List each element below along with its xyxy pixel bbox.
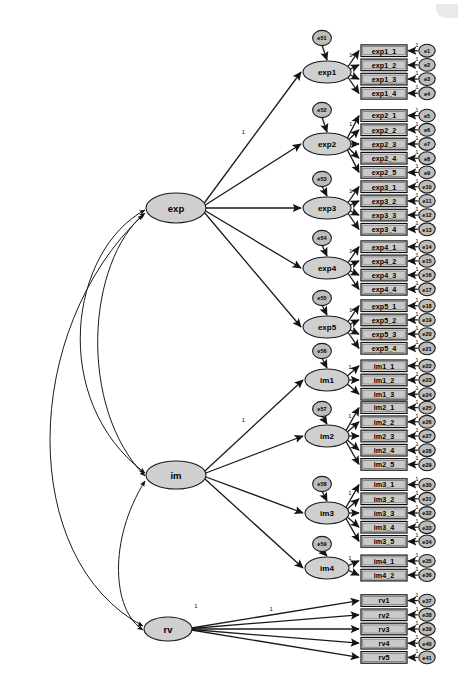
construct-node-exp1[interactable]: exp1 bbox=[303, 61, 351, 83]
latent-node-rv[interactable]: rv bbox=[144, 617, 192, 641]
indicator-box-im1_2[interactable]: im1_2 bbox=[361, 374, 407, 386]
disturbance-node-e59[interactable]: e59 bbox=[313, 536, 332, 551]
error-node-e35[interactable]: e35 bbox=[419, 555, 435, 568]
error-node-e18[interactable]: e18 bbox=[419, 299, 435, 312]
disturbance-node-e52[interactable]: e52 bbox=[313, 102, 332, 117]
error-node-e19[interactable]: e19 bbox=[419, 314, 435, 327]
construct-node-im3[interactable]: im3 bbox=[305, 502, 349, 524]
indicator-box-rv5[interactable]: rv5 bbox=[361, 652, 407, 664]
indicator-box-rv3[interactable]: rv3 bbox=[361, 623, 407, 635]
error-node-e38[interactable]: e38 bbox=[419, 608, 435, 621]
error-node-e20[interactable]: e20 bbox=[419, 328, 435, 341]
indicator-box-exp3_2[interactable]: exp3_2 bbox=[361, 195, 407, 207]
error-node-e5[interactable]: e5 bbox=[419, 109, 435, 122]
error-node-e13[interactable]: e13 bbox=[419, 223, 435, 236]
error-node-e10[interactable]: e10 bbox=[419, 180, 435, 193]
construct-node-im4[interactable]: im4 bbox=[305, 557, 349, 579]
indicator-box-exp5_1[interactable]: exp5_1 bbox=[361, 300, 407, 312]
error-node-e23[interactable]: e23 bbox=[419, 374, 435, 387]
construct-node-exp2[interactable]: exp2 bbox=[303, 133, 351, 155]
indicator-box-im2_2[interactable]: im2_2 bbox=[361, 416, 407, 428]
error-node-e32[interactable]: e32 bbox=[419, 507, 435, 520]
indicator-box-exp5_3[interactable]: exp5_3 bbox=[361, 328, 407, 340]
error-node-e34[interactable]: e34 bbox=[419, 535, 435, 548]
disturbance-node-e55[interactable]: e55 bbox=[313, 290, 332, 305]
indicator-box-im4_1[interactable]: im4_1 bbox=[361, 555, 407, 567]
error-node-e3[interactable]: e3 bbox=[419, 73, 435, 86]
indicator-box-exp3_3[interactable]: exp3_3 bbox=[361, 209, 407, 221]
error-node-e37[interactable]: e37 bbox=[419, 594, 435, 607]
indicator-box-exp2_2[interactable]: exp2_2 bbox=[361, 124, 407, 136]
indicator-box-exp1_4[interactable]: exp1_4 bbox=[361, 88, 407, 100]
error-node-e28[interactable]: e28 bbox=[419, 444, 435, 457]
indicator-box-im3_1[interactable]: im3_1 bbox=[361, 479, 407, 491]
indicator-box-im4_2[interactable]: im4_2 bbox=[361, 569, 407, 581]
indicator-box-im3_4[interactable]: im3_4 bbox=[361, 521, 407, 533]
error-node-e7[interactable]: e7 bbox=[419, 138, 435, 151]
indicator-box-im2_4[interactable]: im2_4 bbox=[361, 444, 407, 456]
error-node-e24[interactable]: e24 bbox=[419, 388, 435, 401]
latent-node-exp[interactable]: exp bbox=[146, 193, 206, 223]
disturbance-node-e57[interactable]: e57 bbox=[313, 401, 332, 416]
indicator-box-exp5_4[interactable]: exp5_4 bbox=[361, 343, 407, 355]
disturbance-node-e54[interactable]: e54 bbox=[313, 230, 332, 245]
error-node-e11[interactable]: e11 bbox=[419, 195, 435, 208]
indicator-box-exp4_4[interactable]: exp4_4 bbox=[361, 284, 407, 296]
error-node-e36[interactable]: e36 bbox=[419, 569, 435, 582]
indicator-box-im3_2[interactable]: im3_2 bbox=[361, 493, 407, 505]
construct-node-im2[interactable]: im2 bbox=[305, 425, 349, 447]
indicator-box-exp2_5[interactable]: exp2_5 bbox=[361, 167, 407, 179]
indicator-box-im3_3[interactable]: im3_3 bbox=[361, 507, 407, 519]
disturbance-node-e53[interactable]: e53 bbox=[313, 171, 332, 186]
indicator-box-exp4_1[interactable]: exp4_1 bbox=[361, 241, 407, 253]
indicator-box-rv1[interactable]: rv1 bbox=[361, 595, 407, 607]
error-node-e22[interactable]: e22 bbox=[419, 359, 435, 372]
error-node-e6[interactable]: e6 bbox=[419, 123, 435, 136]
indicator-box-im2_5[interactable]: im2_5 bbox=[361, 459, 407, 471]
error-node-e41[interactable]: e41 bbox=[419, 651, 435, 664]
indicator-box-exp1_2[interactable]: exp1_2 bbox=[361, 59, 407, 71]
error-node-e2[interactable]: e2 bbox=[419, 59, 435, 72]
error-node-e27[interactable]: e27 bbox=[419, 430, 435, 443]
error-node-e39[interactable]: e39 bbox=[419, 623, 435, 636]
indicator-box-exp2_3[interactable]: exp2_3 bbox=[361, 138, 407, 150]
indicator-box-im3_5[interactable]: im3_5 bbox=[361, 536, 407, 548]
construct-node-exp5[interactable]: exp5 bbox=[303, 316, 351, 338]
error-node-e17[interactable]: e17 bbox=[419, 283, 435, 296]
indicator-box-exp4_3[interactable]: exp4_3 bbox=[361, 269, 407, 281]
indicator-box-exp1_1[interactable]: exp1_1 bbox=[361, 45, 407, 57]
error-node-e40[interactable]: e40 bbox=[419, 637, 435, 650]
indicator-box-im1_3[interactable]: im1_3 bbox=[361, 388, 407, 400]
indicator-box-exp4_2[interactable]: exp4_2 bbox=[361, 255, 407, 267]
indicator-box-exp1_3[interactable]: exp1_3 bbox=[361, 73, 407, 85]
error-node-e31[interactable]: e31 bbox=[419, 492, 435, 505]
error-node-e26[interactable]: e26 bbox=[419, 415, 435, 428]
error-node-e9[interactable]: e9 bbox=[419, 166, 435, 179]
error-node-e30[interactable]: e30 bbox=[419, 478, 435, 491]
latent-node-im[interactable]: im bbox=[146, 461, 206, 489]
indicator-box-exp3_1[interactable]: exp3_1 bbox=[361, 181, 407, 193]
error-node-e12[interactable]: e12 bbox=[419, 209, 435, 222]
indicator-box-rv2[interactable]: rv2 bbox=[361, 609, 407, 621]
error-node-e33[interactable]: e33 bbox=[419, 521, 435, 534]
construct-node-exp3[interactable]: exp3 bbox=[303, 197, 351, 219]
error-node-e1[interactable]: e1 bbox=[419, 44, 435, 57]
error-node-e14[interactable]: e14 bbox=[419, 240, 435, 253]
indicator-box-im2_3[interactable]: im2_3 bbox=[361, 430, 407, 442]
indicator-box-im2_1[interactable]: im2_1 bbox=[361, 402, 407, 414]
indicator-box-exp3_4[interactable]: exp3_4 bbox=[361, 224, 407, 236]
error-node-e29[interactable]: e29 bbox=[419, 458, 435, 471]
indicator-box-rv4[interactable]: rv4 bbox=[361, 637, 407, 649]
error-node-e16[interactable]: e16 bbox=[419, 269, 435, 282]
indicator-box-exp2_4[interactable]: exp2_4 bbox=[361, 152, 407, 164]
error-node-e15[interactable]: e15 bbox=[419, 255, 435, 268]
error-node-e25[interactable]: e25 bbox=[419, 401, 435, 414]
error-node-e4[interactable]: e4 bbox=[419, 87, 435, 100]
indicator-box-im1_1[interactable]: im1_1 bbox=[361, 360, 407, 372]
construct-node-exp4[interactable]: exp4 bbox=[303, 257, 351, 279]
disturbance-node-e56[interactable]: e56 bbox=[313, 343, 332, 358]
disturbance-node-e58[interactable]: e58 bbox=[313, 476, 332, 491]
error-node-e8[interactable]: e8 bbox=[419, 152, 435, 165]
disturbance-node-e51[interactable]: e51 bbox=[313, 30, 332, 45]
error-node-e21[interactable]: e21 bbox=[419, 342, 435, 355]
